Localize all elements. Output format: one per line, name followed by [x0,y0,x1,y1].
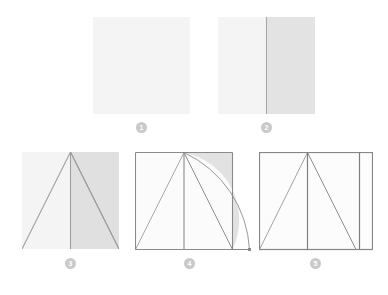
step-panel-3 [22,152,119,249]
step-1-drawing [93,17,190,114]
arc-endpoint-marker [248,248,251,251]
step-3-drawing [22,152,119,249]
step-4-drawing [135,152,251,252]
step-panel-5 [259,152,373,251]
square-fill [93,17,190,114]
step-badge-4: 4 [184,258,195,269]
step-2-drawing [218,17,315,114]
step-panel-4 [135,152,251,252]
step-panel-1 [93,17,190,114]
step-badge-5: 5 [310,258,321,269]
rectangle-fill [260,153,373,250]
step-badge-3: 3 [65,258,76,269]
right-half-shaded [267,17,316,114]
step-badge-2: 2 [261,122,272,133]
step-badge-1: 1 [136,122,147,133]
step-panel-2 [218,17,315,114]
step-5-drawing [259,152,373,251]
construction-figure: 1 2 3 [0,0,388,295]
